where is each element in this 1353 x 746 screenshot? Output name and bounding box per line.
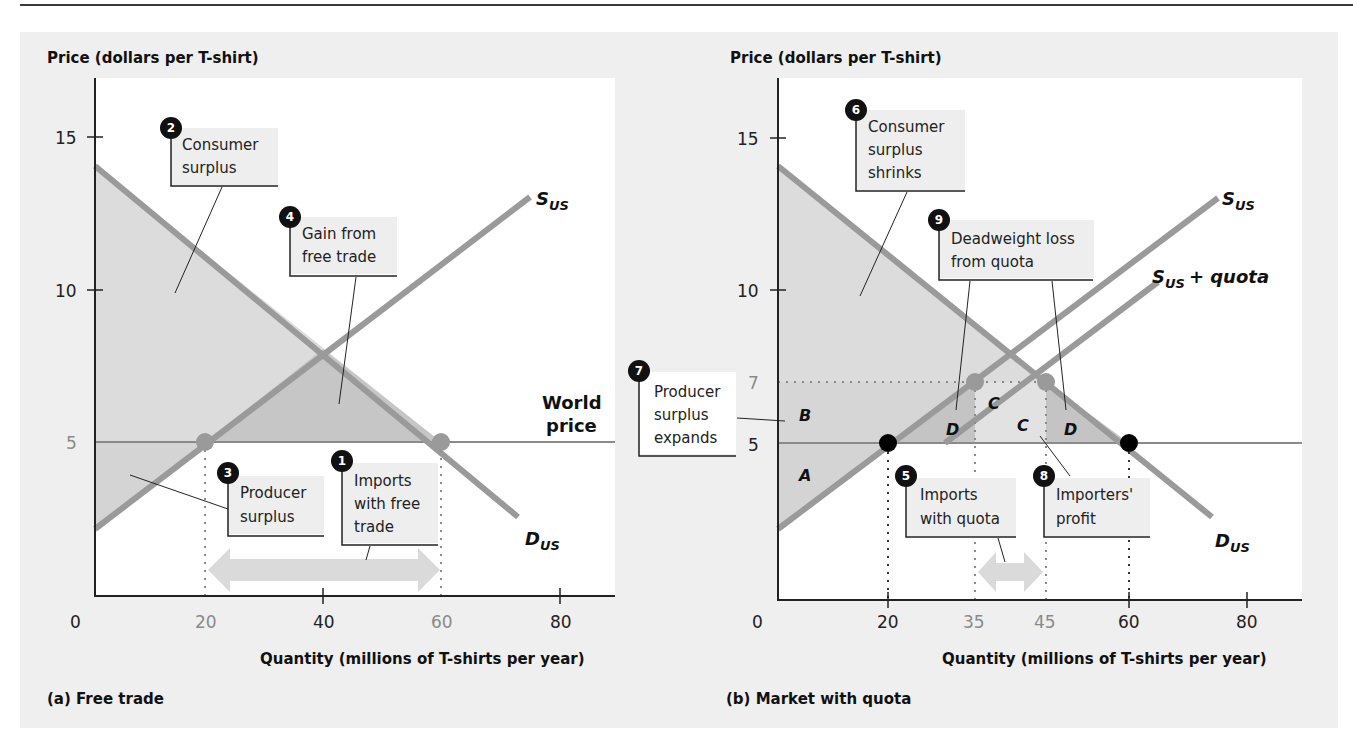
svg-text:from quota: from quota	[951, 253, 1034, 271]
x-axis-title-b: Quantity (millions of T-shirts per year)	[942, 650, 1267, 668]
svg-text:1: 1	[338, 454, 346, 468]
svg-text:shrinks: shrinks	[868, 164, 922, 182]
svg-text:Imports: Imports	[354, 472, 412, 490]
area-label-C-upper: C	[988, 394, 1000, 413]
xtick-60: 60	[431, 612, 453, 632]
xtick-20-b: 20	[877, 612, 899, 632]
svg-text:9: 9	[935, 213, 943, 227]
svg-text:profit: profit	[1056, 510, 1096, 528]
svg-text:surplus: surplus	[240, 508, 295, 526]
ytick-10: 10	[55, 281, 77, 301]
svg-text:Imports: Imports	[920, 486, 978, 504]
svg-text:7: 7	[635, 364, 643, 378]
svg-text:surplus: surplus	[654, 406, 709, 424]
point-q60-b	[1120, 434, 1138, 452]
svg-text:trade: trade	[354, 518, 394, 536]
point-q60	[432, 433, 450, 451]
ytick-5-b: 5	[748, 435, 759, 455]
ytick-5: 5	[66, 433, 77, 453]
svg-text:Importers': Importers'	[1056, 486, 1133, 504]
xtick-20: 20	[195, 612, 217, 632]
figure-svg: Price (dollars per T-shirt) 15 10 5 0 20…	[0, 0, 1353, 746]
svg-text:Producer: Producer	[240, 484, 307, 502]
area-label-C-lower: C	[1017, 416, 1029, 435]
svg-text:Deadweight loss: Deadweight loss	[951, 230, 1075, 248]
xtick-0-b: 0	[752, 612, 763, 632]
xtick-45-b: 45	[1034, 612, 1056, 632]
point-q20-b	[879, 434, 897, 452]
svg-text:6: 6	[852, 103, 860, 117]
callout-producer-surplus-expands: 7 Producer surplus expands	[628, 360, 785, 456]
svg-text:Producer: Producer	[654, 383, 721, 401]
point-q35	[966, 373, 984, 391]
panel-b-market-with-quota: Price (dollars per T-shirt) 15 10 7 5 0 …	[628, 49, 1302, 708]
ytick-10-b: 10	[737, 281, 759, 301]
xtick-80: 80	[550, 612, 572, 632]
xtick-80-b: 80	[1236, 612, 1258, 632]
xtick-35-b: 35	[963, 612, 985, 632]
ytick-7-b: 7	[748, 373, 759, 393]
point-q20	[196, 433, 214, 451]
svg-text:Consumer: Consumer	[868, 118, 945, 136]
svg-text:with quota: with quota	[920, 510, 1000, 528]
svg-text:free trade: free trade	[302, 248, 376, 266]
panel-a-free-trade: Price (dollars per T-shirt) 15 10 5 0 20…	[47, 49, 615, 708]
point-q45	[1037, 373, 1055, 391]
svg-text:Consumer: Consumer	[182, 136, 259, 154]
xtick-0: 0	[70, 612, 81, 632]
area-label-D-right: D	[1064, 420, 1077, 439]
svg-text:with free: with free	[354, 495, 420, 513]
y-axis-title-a: Price (dollars per T-shirt)	[47, 49, 259, 67]
y-axis-title-b: Price (dollars per T-shirt)	[730, 49, 942, 67]
caption-a: (a) Free trade	[47, 690, 164, 708]
svg-text:5: 5	[902, 469, 910, 483]
world-price-label-l2: price	[546, 415, 597, 436]
ytick-15-b: 15	[737, 129, 759, 149]
caption-b: (b) Market with quota	[726, 690, 911, 708]
area-label-A: A	[797, 466, 811, 485]
xtick-40: 40	[313, 612, 335, 632]
svg-text:surplus: surplus	[868, 141, 923, 159]
svg-text:surplus: surplus	[182, 159, 237, 177]
world-price-label-l1: World	[542, 392, 602, 413]
area-label-B: B	[799, 406, 811, 425]
svg-text:8: 8	[1040, 469, 1048, 483]
svg-text:Gain from: Gain from	[302, 225, 376, 243]
ytick-15: 15	[55, 128, 77, 148]
x-axis-title-a: Quantity (millions of T-shirts per year)	[260, 650, 585, 668]
svg-text:4: 4	[286, 210, 294, 224]
svg-text:3: 3	[224, 466, 232, 480]
xtick-60-b: 60	[1118, 612, 1140, 632]
svg-text:expands: expands	[654, 429, 718, 447]
svg-text:2: 2	[167, 121, 175, 135]
area-label-D-left: D	[946, 420, 959, 439]
